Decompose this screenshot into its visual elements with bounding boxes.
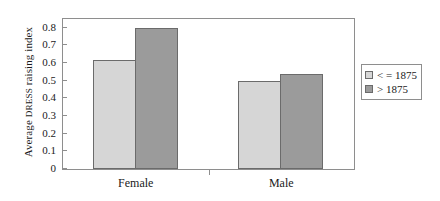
plot-inner: 00.10.20.30.40.50.60.70.8: [63, 19, 354, 169]
y-axis-tick-label: 0.2: [42, 126, 56, 141]
bar-chart: Average DRESS raising index 00.10.20.30.…: [0, 0, 440, 201]
y-axis-title-smallcaps: DRESS: [24, 88, 34, 117]
plot-area: 00.10.20.30.40.50.60.70.8: [62, 18, 355, 170]
x-axis-tick-mark: [209, 169, 210, 175]
y-axis-tick-label: 0: [51, 161, 57, 176]
y-axis-tick-mark: [63, 168, 67, 169]
x-axis-tick-label: Male: [209, 176, 355, 191]
bar: [93, 60, 136, 169]
y-axis-tick-mark: [63, 44, 67, 45]
legend-swatch-icon: [365, 71, 373, 79]
bar: [238, 81, 281, 169]
legend-item: > 1875: [365, 82, 417, 96]
y-axis-title: Average DRESS raising index: [22, 2, 34, 182]
legend: < = 1875 > 1875: [361, 64, 422, 100]
legend-item-label: < = 1875: [377, 69, 417, 81]
legend-swatch-icon: [365, 85, 373, 93]
legend-item: < = 1875: [365, 68, 417, 82]
y-axis-tick-label: 0.1: [42, 143, 56, 158]
y-axis-tick-mark: [63, 62, 67, 63]
y-axis-tick-mark: [63, 115, 67, 116]
y-axis-tick-label: 0.3: [42, 108, 56, 123]
y-axis-tick-mark: [63, 27, 67, 28]
y-axis-tick-label: 0.8: [42, 20, 56, 35]
y-axis-tick-mark: [63, 133, 67, 134]
y-axis-tick-label: 0.7: [42, 37, 56, 52]
x-axis-tick-label: Female: [63, 176, 209, 191]
y-axis-tick-mark: [63, 97, 67, 98]
y-axis-tick-mark: [63, 150, 67, 151]
bar: [280, 74, 323, 169]
y-axis-title-prefix: Average: [22, 117, 34, 157]
y-axis-tick-label: 0.4: [42, 90, 56, 105]
y-axis-title-suffix: raising index: [22, 27, 34, 88]
y-axis-tick-label: 0.5: [42, 73, 56, 88]
bar: [135, 28, 178, 169]
y-axis-tick-label: 0.6: [42, 55, 56, 70]
legend-item-label: > 1875: [377, 83, 408, 95]
y-axis-tick-mark: [63, 80, 67, 81]
